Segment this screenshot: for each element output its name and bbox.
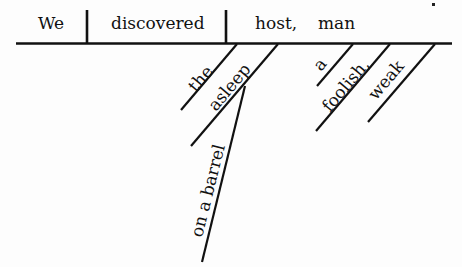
sentence-diagram: We discovered host, man the asleep on a … (0, 0, 462, 267)
object-word: host, (255, 13, 297, 33)
modifier-a: a (309, 54, 331, 75)
phrase-on-a-barrel: on a barrel (186, 142, 228, 239)
modifier-weak: weak (364, 56, 409, 104)
modifier-asleep: asleep (204, 59, 255, 114)
appositive-word: man (318, 13, 355, 33)
diagram-canvas: We discovered host, man the asleep on a … (0, 0, 462, 267)
verb-word: discovered (111, 13, 205, 33)
subject-word: We (38, 13, 64, 33)
